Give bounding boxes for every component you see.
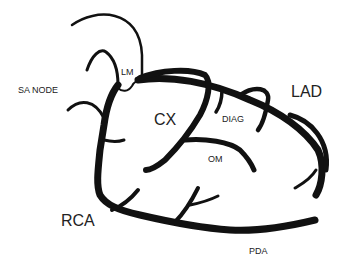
label-rca: RCA xyxy=(61,213,95,229)
vessel-drawing xyxy=(0,0,355,269)
label-lad: LAD xyxy=(291,84,322,100)
sa-node-branch-upper xyxy=(87,51,118,85)
rca-branch-1 xyxy=(112,190,138,210)
label-diagonal: DIAG xyxy=(222,115,244,124)
lad-distal-branch xyxy=(295,170,316,188)
sa-node-branch xyxy=(68,102,104,118)
aorta-outline xyxy=(72,15,142,75)
label-obtuse-marginal: OM xyxy=(208,155,223,164)
rca-marginal-branch xyxy=(104,140,124,142)
label-pda: PDA xyxy=(249,247,268,256)
diagonal-branch-1 xyxy=(216,90,222,112)
coronary-artery-diagram: SA NODE LM CX DIAG LAD OM RCA PDA xyxy=(0,0,355,269)
label-sa-node: SA NODE xyxy=(18,86,58,95)
label-circumflex: CX xyxy=(154,112,176,128)
label-left-main: LM xyxy=(121,68,134,77)
